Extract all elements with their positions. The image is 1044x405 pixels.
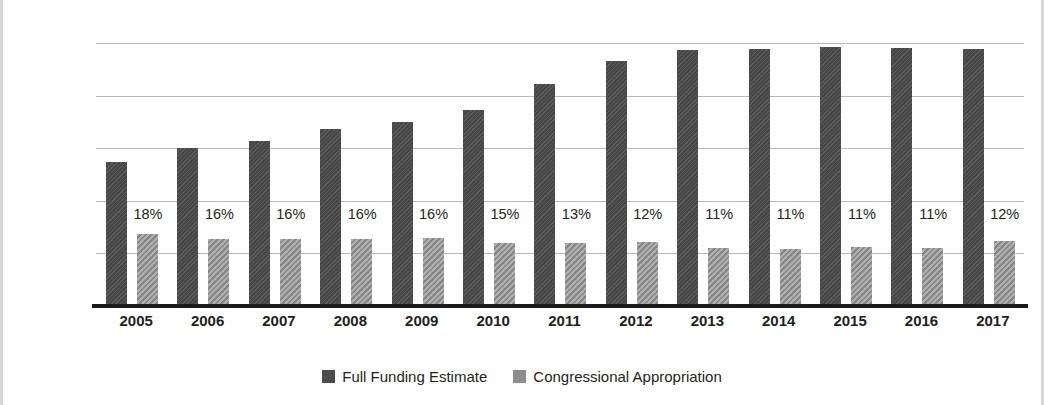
bar-full-funding-estimate[interactable] <box>891 48 912 306</box>
bar-full-funding-estimate[interactable] <box>963 49 984 306</box>
percent-label: 16% <box>267 206 315 222</box>
bar-congressional-appropriation[interactable] <box>780 249 801 306</box>
scan-edge-left <box>0 0 3 405</box>
bar-group: 16% <box>310 43 381 306</box>
bar-group: 15% <box>453 43 524 306</box>
bar-full-funding-estimate[interactable] <box>606 61 627 306</box>
bar-congressional-appropriation[interactable] <box>851 247 872 306</box>
bar-congressional-appropriation[interactable] <box>565 243 586 306</box>
x-axis-label: 2008 <box>310 312 381 329</box>
legend-item[interactable]: Congressional Appropriation <box>513 368 721 385</box>
legend-swatch-icon <box>322 370 335 383</box>
bar-group: 16% <box>382 43 453 306</box>
percent-label: 11% <box>909 206 957 222</box>
x-axis-label: 2006 <box>167 312 238 329</box>
bar-full-funding-estimate[interactable] <box>106 162 127 306</box>
bar-congressional-appropriation[interactable] <box>994 241 1015 306</box>
x-axis-label: 2014 <box>739 312 810 329</box>
bar-group: 16% <box>167 43 238 306</box>
x-axis-label: 2009 <box>382 312 453 329</box>
bar-full-funding-estimate[interactable] <box>820 47 841 306</box>
percent-label: 16% <box>410 206 458 222</box>
bar-full-funding-estimate[interactable] <box>534 84 555 306</box>
bar-congressional-appropriation[interactable] <box>423 238 444 306</box>
bar-groups: 18%16%16%16%16%15%13%12%11%11%11%11%12% <box>96 43 1024 306</box>
bar-full-funding-estimate[interactable] <box>249 141 270 306</box>
legend-label: Full Funding Estimate <box>342 368 487 385</box>
chart-legend: Full Funding EstimateCongressional Appro… <box>0 368 1044 385</box>
percent-label: 12% <box>624 206 672 222</box>
x-axis-label: 2017 <box>953 312 1024 329</box>
percent-label: 11% <box>695 206 743 222</box>
percent-label: 16% <box>338 206 386 222</box>
bar-congressional-appropriation[interactable] <box>494 243 515 306</box>
bar-congressional-appropriation[interactable] <box>351 239 372 306</box>
bar-group: 18% <box>96 43 167 306</box>
bar-full-funding-estimate[interactable] <box>177 148 198 306</box>
x-axis-label: 2007 <box>239 312 310 329</box>
x-axis-label: 2010 <box>453 312 524 329</box>
bar-group: 11% <box>810 43 881 306</box>
bar-chart: In Billions $50$40$30$20$10$0 18%16%16%1… <box>0 0 1044 405</box>
x-axis-line <box>92 304 1028 308</box>
x-axis-label: 2013 <box>667 312 738 329</box>
x-axis-label: 2005 <box>96 312 167 329</box>
percent-label: 18% <box>124 206 172 222</box>
legend-swatch-icon <box>513 370 526 383</box>
bar-group: 12% <box>953 43 1024 306</box>
bar-congressional-appropriation[interactable] <box>208 239 229 306</box>
bar-group: 13% <box>524 43 595 306</box>
bar-group: 11% <box>881 43 952 306</box>
bar-full-funding-estimate[interactable] <box>677 50 698 306</box>
bar-congressional-appropriation[interactable] <box>637 242 658 306</box>
legend-item[interactable]: Full Funding Estimate <box>322 368 487 385</box>
bar-full-funding-estimate[interactable] <box>749 49 770 306</box>
percent-label: 12% <box>981 206 1029 222</box>
bar-congressional-appropriation[interactable] <box>280 239 301 306</box>
bar-group: 16% <box>239 43 310 306</box>
x-axis-label: 2011 <box>524 312 595 329</box>
x-axis-label: 2012 <box>596 312 667 329</box>
bar-group: 12% <box>596 43 667 306</box>
percent-label: 13% <box>552 206 600 222</box>
x-axis-label: 2016 <box>881 312 952 329</box>
bar-group: 11% <box>667 43 738 306</box>
percent-label: 11% <box>838 206 886 222</box>
percent-label: 15% <box>481 206 529 222</box>
percent-label: 11% <box>767 206 815 222</box>
percent-label: 16% <box>195 206 243 222</box>
legend-label: Congressional Appropriation <box>533 368 721 385</box>
x-axis-label: 2015 <box>810 312 881 329</box>
bar-congressional-appropriation[interactable] <box>137 234 158 306</box>
bar-congressional-appropriation[interactable] <box>708 248 729 306</box>
bar-congressional-appropriation[interactable] <box>922 248 943 306</box>
bar-group: 11% <box>739 43 810 306</box>
x-axis-labels: 2005200620072008200920102011201220132014… <box>96 312 1024 329</box>
